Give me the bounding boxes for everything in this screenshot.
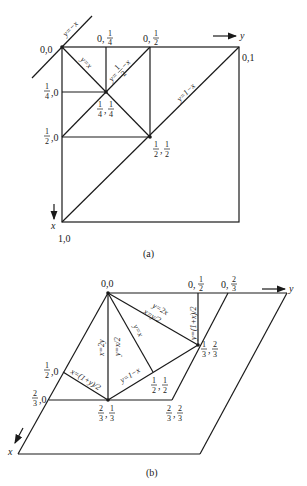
svg-text:2: 2 [45,371,49,380]
label-twothirds-0: 2 3 ,0 [32,389,47,408]
point-twothirds-third [106,398,110,402]
svg-text:,0: ,0 [51,132,59,143]
label-quarter-0: 1 4 ,0 [44,82,59,101]
point-origin [106,291,110,295]
svg-text:2: 2 [33,389,37,398]
svg-text:,: , [173,408,176,419]
svg-text:2: 2 [167,404,171,413]
line-y-eq-x [108,293,153,372]
svg-text:2: 2 [163,386,167,395]
svg-text:,0: ,0 [39,394,47,405]
svg-text:3: 3 [178,414,182,423]
svg-text:3: 3 [213,350,217,359]
y-axis-label: y [239,30,245,41]
x-axis-label: x [50,220,56,231]
svg-text:0,: 0, [143,33,151,44]
svg-text:0,: 0, [97,33,105,44]
svg-text:2: 2 [99,404,103,413]
right-edge [200,293,287,454]
label-line-y-eq-x-half: y=x/2 [113,337,122,357]
svg-text:2: 2 [165,150,169,159]
label-line-x-eq-2y: x=2y [97,339,106,357]
svg-text:3: 3 [99,414,103,423]
diagram-canvas: y x 0,0 0, 1 4 0, 1 2 0,1 1 4 ,0 1 2 ,0 [0,0,307,486]
svg-text:2: 2 [213,340,217,349]
caption-b: (b) [146,467,158,479]
svg-text:,: , [105,408,108,419]
label-half-0: 1 2 ,0 [44,127,59,146]
svg-text:1: 1 [108,29,112,38]
point-half-half [148,135,152,139]
svg-text:1: 1 [98,100,102,109]
svg-text:1: 1 [109,100,113,109]
point-quarter-quarter [104,90,108,94]
label-quarter-quarter: 1 4 , 1 4 [97,100,114,119]
point-third-twothirds [196,343,200,347]
svg-text:4: 4 [98,110,102,119]
label-0-half: 0, 1 2 [188,275,204,293]
label-origin: 0,0 [101,278,114,289]
label-1-0: 1,0 [58,233,71,244]
caption-a: (a) [143,248,154,260]
svg-text:1: 1 [165,140,169,149]
svg-text:2: 2 [152,386,156,395]
label-line-y-eq-neg-x: y=−x [60,19,80,39]
y-axis-label: y [288,283,294,294]
svg-text:1: 1 [154,140,158,149]
svg-text:−x: −x [119,57,132,70]
label-line-y-eq-x: y=x [78,54,94,70]
label-twothirds-third: 2 3 , 1 3 [98,404,115,423]
left-edge [18,293,108,454]
svg-text:2: 2 [199,284,203,293]
svg-text:3: 3 [202,350,206,359]
svg-text:0,: 0, [221,279,229,290]
label-line-y-eq-1-minus-x: y=1−x [118,365,143,385]
label-half-half: 1 2 , 1 2 [153,140,170,159]
label-origin: 0,0 [40,44,53,55]
label-line-x-eq-1plusy-half: x=(1+y)/2 [68,366,102,391]
svg-text:3: 3 [167,414,171,423]
label-0-quarter: 0, 1 4 [97,29,113,47]
svg-text:1: 1 [199,275,203,284]
x-axis-arrow-icon [15,428,23,443]
label-line-y-eq-1-minus-x: y=1−x [174,81,197,104]
line-y-twothirds [172,293,228,400]
label-line-y-eq-1plusx-half: y=(1+x)/2 [189,307,198,341]
svg-text:2: 2 [154,38,158,47]
svg-text:3: 3 [110,414,114,423]
svg-text:4: 4 [109,110,113,119]
svg-text:1: 1 [45,82,49,91]
svg-text:,: , [208,344,211,355]
label-0-twothirds: 0, 2 3 [221,275,237,293]
svg-text:,0: ,0 [51,87,59,98]
label-third-twothirds: 1 3 , 2 3 [201,340,218,359]
point-origin [60,45,64,49]
svg-text:,0: ,0 [51,366,59,377]
label-0-1: 0,1 [242,52,255,63]
svg-text:1: 1 [202,340,206,349]
svg-text:,: , [158,380,161,391]
svg-text:1: 1 [110,404,114,413]
figure-a: y x 0,0 0, 1 4 0, 1 2 0,1 1 4 ,0 1 2 ,0 [32,16,255,260]
label-twothirds-twothirds: 2 3 , 2 3 [166,404,183,423]
svg-text:,: , [160,144,163,155]
label-half-half: 1 2 , 1 2 [151,376,168,395]
svg-text:1: 1 [152,376,156,385]
x-axis-label: x [7,446,13,457]
figure-b: y x 0,0 0, 1 2 0, 2 3 1 2 ,0 2 3 ,0 [7,275,294,479]
svg-text:0,: 0, [188,279,196,290]
svg-text:2: 2 [232,275,236,284]
svg-text:4: 4 [108,38,112,47]
svg-text:y=: y= [106,71,119,84]
svg-text:,: , [104,104,107,115]
svg-text:4: 4 [45,92,49,101]
svg-text:2: 2 [154,150,158,159]
svg-text:3: 3 [33,399,37,408]
label-half-0: 1 2 ,0 [44,361,59,380]
svg-text:1: 1 [163,376,167,385]
svg-text:2: 2 [178,404,182,413]
svg-text:2: 2 [45,137,49,146]
svg-text:3: 3 [232,284,236,293]
label-0-half: 0, 1 2 [143,29,159,47]
svg-text:1: 1 [154,29,158,38]
